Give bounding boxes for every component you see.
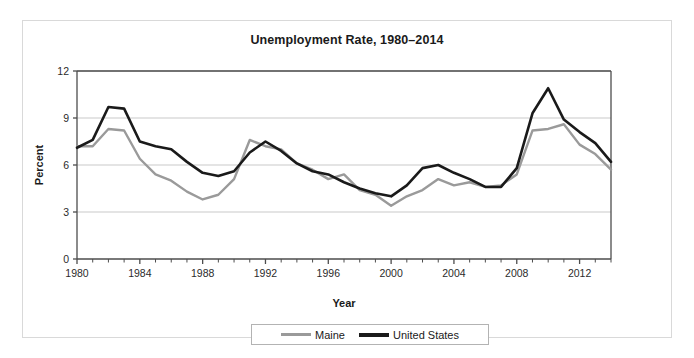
legend-swatch-united-states-icon <box>359 333 389 337</box>
legend-label-maine: Maine <box>315 329 345 341</box>
legend-swatch-maine-icon <box>281 333 311 336</box>
line-chart-svg: 036912 198019841988199219962000200420082… <box>23 21 673 339</box>
svg-text:3: 3 <box>63 206 69 218</box>
svg-text:1980: 1980 <box>65 267 89 279</box>
svg-text:2008: 2008 <box>505 267 529 279</box>
y-axis-title: Percent <box>33 144 45 185</box>
svg-text:1988: 1988 <box>191 267 215 279</box>
data-series <box>77 88 611 205</box>
plot-area: 036912 198019841988199219962000200420082… <box>23 21 673 339</box>
figure-frame: Unemployment Rate, 1980–2014 036912 1980… <box>22 20 672 338</box>
chart-legend: Maine United States <box>251 324 489 345</box>
x-axis-ticks <box>77 259 611 264</box>
gridlines <box>77 71 611 212</box>
legend-item-united-states: United States <box>359 329 459 341</box>
legend-item-maine: Maine <box>281 329 345 341</box>
svg-text:2000: 2000 <box>379 267 403 279</box>
svg-text:1984: 1984 <box>128 267 152 279</box>
svg-text:1992: 1992 <box>254 267 278 279</box>
svg-text:2004: 2004 <box>442 267 466 279</box>
legend-label-united-states: United States <box>393 329 459 341</box>
svg-text:9: 9 <box>63 112 69 124</box>
svg-text:12: 12 <box>57 65 69 77</box>
svg-text:1996: 1996 <box>317 267 341 279</box>
x-axis-tick-labels: 198019841988199219962000200420082012 <box>65 267 591 279</box>
x-axis-title: Year <box>332 297 356 309</box>
svg-text:2012: 2012 <box>568 267 592 279</box>
svg-text:0: 0 <box>63 253 69 265</box>
svg-text:6: 6 <box>63 159 69 171</box>
y-axis-tick-labels: 036912 <box>57 65 69 265</box>
